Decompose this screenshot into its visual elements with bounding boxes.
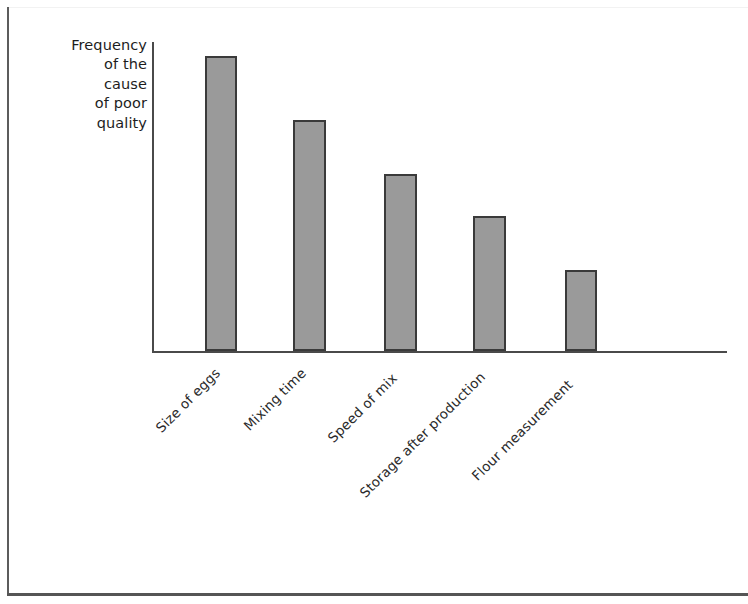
x-axis-tick-label: Flour measurement (468, 376, 575, 483)
y-axis-label-line-5: quality (17, 114, 147, 133)
bar (473, 216, 506, 351)
x-axis-line (152, 351, 727, 353)
bar (205, 56, 237, 351)
x-axis-tick-label: Mixing time (240, 365, 309, 434)
y-axis-label-line-3: cause (17, 75, 147, 94)
y-axis-line (152, 42, 154, 353)
bar (384, 174, 417, 351)
y-axis-label-line-1: Frequency (17, 36, 147, 55)
y-axis-label-line-2: of the (17, 55, 147, 74)
bar-chart: Frequency of the cause of poor quality S… (0, 0, 748, 604)
figure-page: Frequency of the cause of poor quality S… (0, 0, 748, 604)
y-axis-label-line-4: of poor (17, 94, 147, 113)
bar (565, 270, 597, 351)
x-axis-tick-label: Speed of mix (324, 370, 400, 446)
y-axis-label: Frequency of the cause of poor quality (17, 36, 147, 133)
bar (293, 120, 326, 351)
x-axis-tick-label: Size of eggs (152, 365, 223, 436)
